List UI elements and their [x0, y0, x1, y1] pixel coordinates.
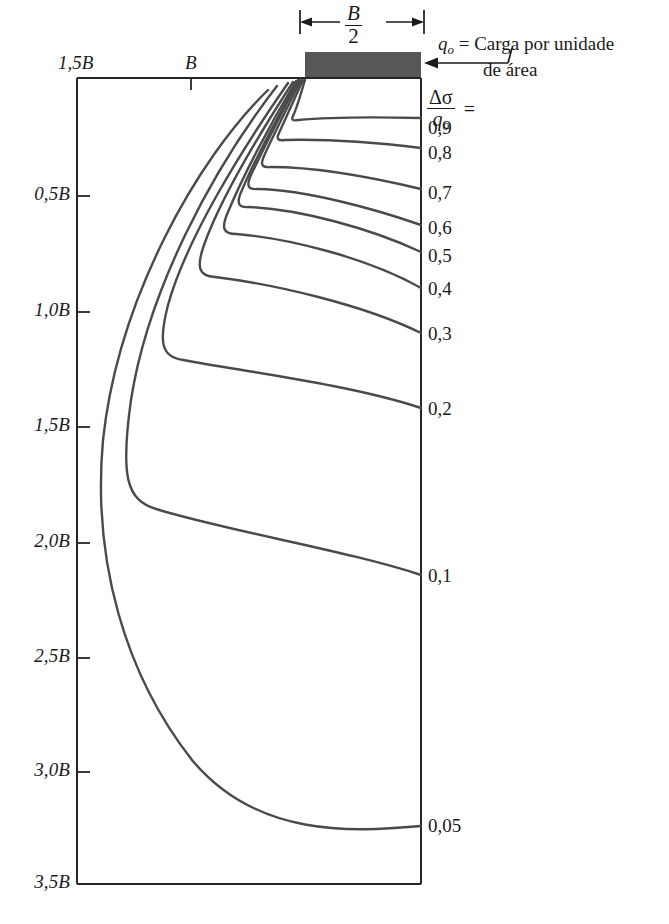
depth-label-2-0B: 2,0B: [18, 530, 70, 552]
contour-label-0-5: 0,5: [428, 245, 452, 267]
depth-label-1-0B: 1,0B: [18, 299, 70, 321]
contour-label-0-8: 0,8: [428, 142, 452, 164]
depth-label-2-5B: 2,5B: [18, 645, 70, 667]
contour-label-0-4: 0,4: [428, 278, 452, 300]
isobar-0-2: [163, 83, 421, 408]
dimension-denominator: 2: [345, 25, 362, 48]
depth-label-0-5B: 0,5B: [18, 183, 70, 205]
isobar-contours: [101, 80, 421, 829]
isobar-0-1: [126, 86, 421, 575]
contour-label-0-05: 0,05: [428, 815, 461, 837]
isobar-diagram-svg: [0, 0, 669, 924]
contour-label-0-1: 0,1: [428, 565, 452, 587]
top-axis-label-B: B: [185, 52, 197, 74]
top-axis-label-1-5B: 1,5B: [58, 52, 93, 74]
load-equals: =: [459, 33, 470, 54]
contour-label-0-7: 0,7: [428, 182, 452, 204]
depth-label-3-5B: 3,5B: [18, 871, 70, 893]
dimension-label-b-over-2: B 2: [345, 3, 362, 48]
ratio-equals: =: [460, 98, 475, 120]
load-symbol: q: [438, 33, 448, 54]
isobar-0-4: [224, 81, 421, 288]
dimension-b-over-2: [300, 10, 424, 34]
ratio-numerator: Δσ: [427, 87, 455, 108]
contour-label-0-9: 0,9: [428, 117, 452, 139]
contour-label-0-2: 0,2: [428, 398, 452, 420]
dimension-numerator: B: [345, 3, 362, 25]
pressure-bulb-figure: 1,5B B B 2 qo = Carga por unidade de áre…: [0, 0, 669, 924]
load-text-line1: Carga por unidade: [474, 33, 614, 54]
isobar-0-9: [292, 80, 421, 120]
contour-label-0-3: 0,3: [428, 323, 452, 345]
loaded-area-block: [305, 52, 421, 78]
depth-ticks: [77, 196, 90, 772]
depth-label-3-0B: 3,0B: [18, 759, 70, 781]
isobar-0-8: [278, 80, 421, 148]
load-symbol-subscript: o: [448, 42, 454, 57]
depth-label-1-5B: 1,5B: [18, 414, 70, 436]
load-text-line2: de área: [483, 58, 537, 82]
isobar-0-05: [101, 90, 421, 829]
contour-label-0-6: 0,6: [428, 217, 452, 239]
load-annotation: qo = Carga por unidade de área: [438, 32, 614, 82]
